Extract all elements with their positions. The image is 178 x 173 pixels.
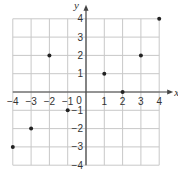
y-tick-label: −4 <box>72 160 84 171</box>
data-point <box>47 53 51 57</box>
data-point <box>66 108 70 112</box>
x-tick-label: 3 <box>138 96 144 107</box>
x-axis-arrow-icon <box>167 90 173 95</box>
x-tick-label: 2 <box>120 96 126 107</box>
data-point <box>29 127 33 131</box>
y-tick-label: 3 <box>77 32 83 43</box>
x-tick-label: −2 <box>44 96 56 107</box>
x-tick-label: −3 <box>25 96 37 107</box>
y-tick-label: −1 <box>72 105 84 116</box>
x-tick-label: −4 <box>7 96 19 107</box>
x-tick-label: 4 <box>156 96 162 107</box>
y-tick-label: −2 <box>72 123 84 134</box>
y-tick-label: 2 <box>77 50 83 61</box>
data-point <box>139 53 143 57</box>
data-point <box>157 17 161 21</box>
axes: xy <box>13 0 178 165</box>
data-point <box>102 72 106 76</box>
x-tick-label: 1 <box>102 96 108 107</box>
y-tick-label: −3 <box>72 141 84 152</box>
x-axis-label: x <box>173 86 178 98</box>
y-axis-label: y <box>73 0 79 11</box>
origin-label: 0 <box>76 95 82 106</box>
data-point <box>11 145 15 149</box>
y-axis-arrow-icon <box>84 5 89 11</box>
y-tick-label: 4 <box>77 13 83 24</box>
data-point <box>121 90 125 94</box>
y-tick-label: 1 <box>77 68 83 79</box>
scatter-plot: xy −4−3−2−112344321−1−2−3−40 <box>0 0 178 173</box>
